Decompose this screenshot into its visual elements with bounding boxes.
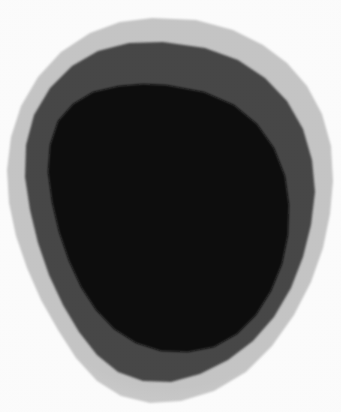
concentric-rings-figure	[0, 0, 341, 412]
image-canvas: Three nested, polygon-faceted rings form…	[0, 0, 341, 412]
